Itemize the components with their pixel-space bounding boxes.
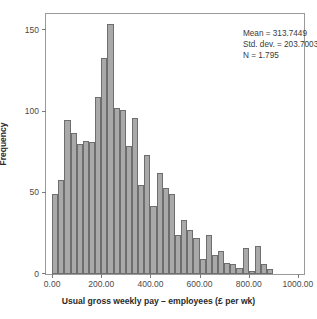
stat-stddev: Std. dev. = 203.70031: [243, 39, 317, 50]
x-axis-tick-label: 600.00: [187, 279, 213, 289]
y-axis-title: Frequency: [0, 123, 8, 166]
histogram-bar: [267, 269, 273, 274]
y-axis-tick: 100: [42, 111, 46, 112]
y-axis-tick: 50: [42, 192, 46, 193]
x-axis-tick: [298, 274, 299, 278]
x-axis-tick-label: 200.00: [88, 279, 114, 289]
y-axis-tick-label: 50: [30, 187, 39, 197]
x-axis-tick: [101, 274, 102, 278]
plot-area: 050100150 Mean = 313.7449 Std. dev. = 20…: [45, 13, 305, 275]
y-axis-tick-label: 150: [25, 25, 39, 35]
x-axis-title: Usual gross weekly pay – employees (£ pe…: [0, 296, 317, 306]
statistics-annotation: Mean = 313.7449 Std. dev. = 203.70031 N …: [243, 28, 317, 62]
x-axis-tick-label: 800.00: [236, 279, 262, 289]
stat-mean: Mean = 313.7449: [243, 28, 317, 39]
x-axis-tick: [52, 274, 53, 278]
histogram-chart: Frequency 050100150 Mean = 313.7449 Std.…: [0, 0, 317, 319]
y-axis-tick: 0: [42, 273, 46, 274]
x-axis-tick-label: 400.00: [137, 279, 163, 289]
y-axis-tick-label: 100: [25, 106, 39, 116]
x-axis-tick: [150, 274, 151, 278]
y-axis-tick: 150: [42, 29, 46, 30]
y-axis-tick-label: 0: [34, 269, 39, 279]
x-axis-tick-label: 1000.00: [282, 279, 313, 289]
x-axis-tick-label: 0.00: [44, 279, 61, 289]
x-axis-tick: [200, 274, 201, 278]
x-axis-tick: [249, 274, 250, 278]
stat-n: N = 1.795: [243, 50, 317, 61]
